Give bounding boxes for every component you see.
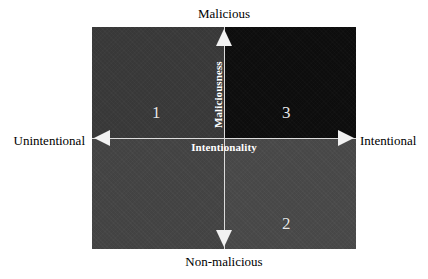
triangle-down-icon <box>216 230 232 247</box>
vertical-axis-title: Maliciousness <box>212 61 224 128</box>
quadrant-number-3: 3 <box>282 104 291 121</box>
quadrant-diagram-figure: 1 3 2 Intentionality Maliciousness Malic… <box>0 0 428 279</box>
triangle-left-icon <box>94 130 110 146</box>
axis-end-label-left: Unintentional <box>14 133 86 149</box>
axis-end-label-top: Malicious <box>198 6 250 22</box>
horizontal-axis-title: Intentionality <box>191 141 257 153</box>
triangle-right-icon <box>338 130 354 146</box>
triangle-up-icon <box>216 29 232 46</box>
quadrant-bottom-left <box>92 138 224 249</box>
plot-area: 1 3 2 Intentionality Maliciousness <box>92 27 356 249</box>
axis-end-label-bottom: Non-malicious <box>185 254 262 270</box>
axis-end-label-right: Intentional <box>360 133 416 149</box>
quadrant-number-1: 1 <box>152 104 161 121</box>
quadrant-number-2: 2 <box>282 215 291 232</box>
